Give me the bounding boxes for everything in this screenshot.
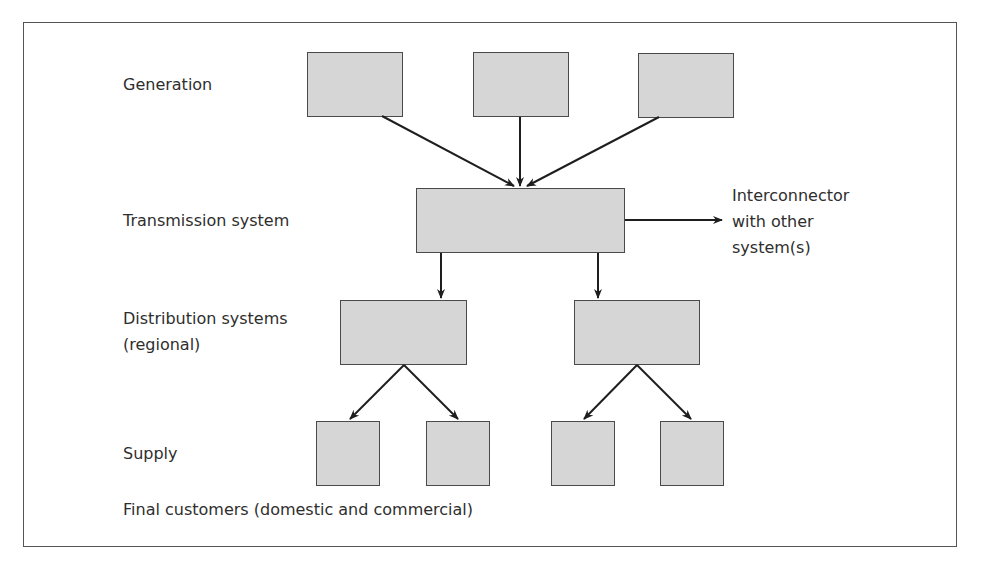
arrow-dist2-to-supply3: [584, 365, 637, 419]
arrow-dist1-to-supply1: [350, 365, 404, 419]
arrow-dist2-to-supply4: [637, 365, 691, 419]
arrow-gen3-to-transmission: [527, 117, 659, 186]
arrow-connectors: [0, 0, 981, 569]
arrow-gen1-to-transmission: [382, 116, 514, 186]
arrow-dist1-to-supply2: [404, 365, 458, 419]
